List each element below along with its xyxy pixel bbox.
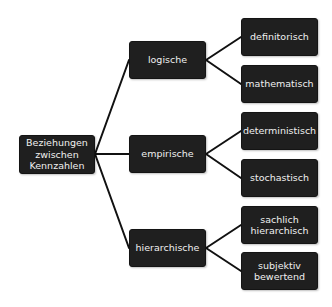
leaf-node-sachlich-hierarchisch: sachlich hierarchisch xyxy=(241,206,318,244)
leaf-node-deterministisch: deterministisch xyxy=(241,112,318,150)
root-node-label: Beziehungen zwischen Kennzahlen xyxy=(26,137,88,172)
leaf-node-stochastisch: stochastisch xyxy=(241,159,318,197)
branch-node-label: empirische xyxy=(141,148,193,160)
leaf-node-definitorisch: definitorisch xyxy=(241,18,318,56)
leaf-node-subjektiv-bewertend: subjektiv bewertend xyxy=(241,252,318,290)
leaf-node-label: mathematisch xyxy=(245,78,313,90)
branch-node-hierarchische: hierarchische xyxy=(129,229,206,267)
leaf-node-label: definitorisch xyxy=(250,31,309,43)
connector-root-logische xyxy=(95,60,129,154)
leaf-node-label: sachlich hierarchisch xyxy=(250,214,308,237)
kennzahlen-relationship-diagram: Beziehungen zwischen Kennzahlen logische… xyxy=(0,0,332,307)
connector-empirische-stochastisch xyxy=(206,154,241,178)
leaf-node-mathematisch: mathematisch xyxy=(241,65,318,103)
connector-root-hierarchische xyxy=(95,154,129,248)
leaf-node-label: subjektiv bewertend xyxy=(254,260,305,283)
branch-node-label: logische xyxy=(148,54,187,66)
connector-hierarchische-sachlich xyxy=(206,225,241,248)
branch-node-empirische: empirische xyxy=(129,135,206,173)
connector-logische-mathematisch xyxy=(206,60,241,84)
connector-hierarchische-subjektiv xyxy=(206,248,241,271)
leaf-node-label: stochastisch xyxy=(250,172,309,184)
branch-node-label: hierarchische xyxy=(136,242,200,254)
connector-empirische-deterministisch xyxy=(206,131,241,154)
connector-logische-definitorisch xyxy=(206,37,241,60)
branch-node-logische: logische xyxy=(129,41,206,79)
leaf-node-label: deterministisch xyxy=(243,125,316,137)
root-node: Beziehungen zwischen Kennzahlen xyxy=(19,135,95,174)
